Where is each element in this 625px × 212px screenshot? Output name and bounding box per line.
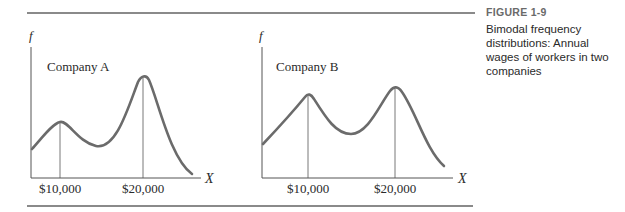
x-tick-label: $10,000: [39, 181, 81, 196]
frequency-curve: [32, 76, 192, 174]
x-axis-label: X: [204, 171, 214, 186]
x-tick-label: $20,000: [122, 181, 164, 196]
x-tick-label: $20,000: [374, 181, 416, 196]
chart-title: Company A: [47, 59, 110, 74]
x-axis-label: X: [457, 171, 467, 186]
figure-label: FIGURE 1-9: [486, 6, 621, 18]
x-tick-label: $10,000: [287, 181, 329, 196]
y-axis-label: f: [29, 28, 35, 43]
chart-company-b: f X Company B $10,000 $20,000: [259, 28, 467, 196]
figure-caption: FIGURE 1-9 Bimodal frequency distributio…: [486, 6, 621, 78]
y-axis-label: f: [259, 28, 265, 43]
figure-caption-text: Bimodal frequency distributions: Annual …: [486, 22, 621, 78]
chart-title: Company B: [276, 59, 339, 74]
chart-company-a: f X Company A $10,000 $20,000: [29, 28, 214, 196]
frequency-curve: [263, 87, 444, 166]
